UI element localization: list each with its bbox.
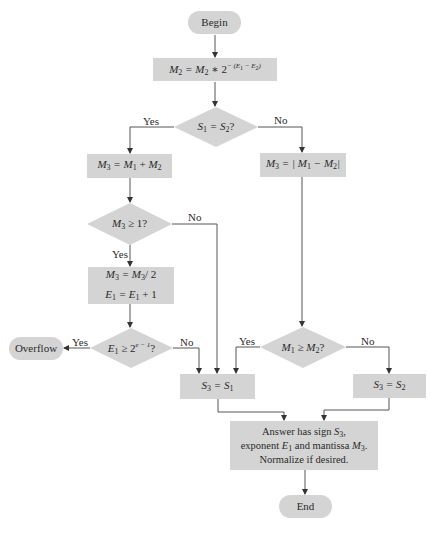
carry-check-decision: M3 ≥ 1?	[87, 203, 172, 245]
edge-label-carry-no: No	[188, 211, 201, 223]
add-mantissas-process: M3 = M1 + M2	[87, 154, 172, 178]
result-line-1: Answer has sign S3,	[262, 426, 346, 440]
edge-label-sign-yes: Yes	[143, 115, 159, 127]
result-line-2: exponent E1 and mantissa M3.	[241, 440, 368, 454]
result-line-3: Normalize if desired.	[260, 454, 349, 465]
overflow-terminal: Overflow	[9, 337, 63, 360]
subtract-mantissas-process: M3 = | M1 − M2|	[260, 153, 346, 177]
begin-terminal: Begin	[188, 11, 241, 34]
begin-label: Begin	[201, 16, 227, 29]
end-label: End	[297, 500, 315, 513]
edge-label-overflow-yes: Yes	[72, 336, 88, 348]
edge-label-overflow-no: No	[180, 336, 193, 348]
sign-s2-process: S3 = S2	[353, 374, 426, 398]
normalize-shift-process: M3 = M3/ 2 E1 = E1 + 1	[88, 267, 174, 304]
magnitude-check-decision: M1 ≥ M2?	[260, 327, 346, 368]
edge-label-magnitude-no: No	[361, 335, 374, 347]
align-formula: M2 = M2 ∗ 2− (E1 − E2)	[169, 60, 261, 79]
sign-check-decision: S1 = S2?	[174, 107, 258, 147]
align-mantissa-process: M2 = M2 ∗ 2− (E1 − E2)	[153, 58, 277, 81]
overflow-label: Overflow	[15, 342, 57, 355]
overflow-check-decision: E1 ≥ 2e − 1?	[90, 328, 173, 368]
sign-s1-process: S3 = S1	[180, 374, 255, 399]
end-terminal: End	[279, 495, 332, 518]
result-process: Answer has sign S3, exponent E1 and mant…	[230, 421, 378, 470]
edge-label-magnitude-yes: Yes	[239, 335, 255, 347]
edge-label-carry-yes: Yes	[112, 248, 128, 260]
edge-label-sign-no: No	[274, 114, 287, 126]
